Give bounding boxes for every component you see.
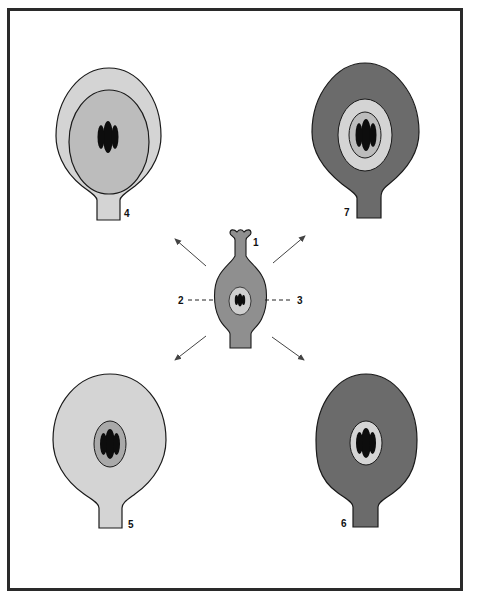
arrow-to-5 xyxy=(175,336,206,360)
panel-5-label: 5 xyxy=(128,519,134,530)
panel-6-nucleus xyxy=(356,428,376,458)
arrow-to-6 xyxy=(272,337,304,360)
center-nucleus xyxy=(235,294,245,307)
panel-5: 5 xyxy=(53,374,166,530)
panel-7-label: 7 xyxy=(344,207,350,218)
panel-4-label: 4 xyxy=(124,208,130,219)
center-flask: 1 2 3 xyxy=(178,230,303,348)
center-label-2: 2 xyxy=(178,295,184,306)
panel-6: 6 xyxy=(316,374,417,529)
panel-7-nucleus xyxy=(356,119,377,151)
center-label-3: 3 xyxy=(297,295,303,306)
panel-4-nucleus xyxy=(98,121,119,153)
panel-7: 7 xyxy=(312,63,419,218)
panel-6-label: 6 xyxy=(341,518,347,529)
arrow-to-7 xyxy=(273,236,305,263)
diagram-canvas: 4 7 1 2 3 xyxy=(0,0,487,616)
arrow-to-4 xyxy=(175,239,206,266)
center-label-1: 1 xyxy=(253,237,259,248)
panel-5-nucleus xyxy=(100,429,120,459)
panel-4: 4 xyxy=(56,68,161,220)
